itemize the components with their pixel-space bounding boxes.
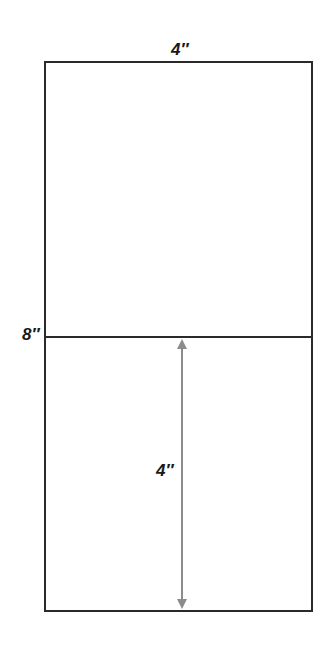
top-width-label: 4″ [171,41,189,58]
arrow-head-up-icon [177,339,187,349]
inner-height-label: 4″ [156,462,174,479]
dimension-arrow [177,339,187,609]
diagram-canvas [0,0,333,649]
arrow-head-down-icon [177,599,187,609]
left-height-mark-label: 8″ [22,326,40,343]
